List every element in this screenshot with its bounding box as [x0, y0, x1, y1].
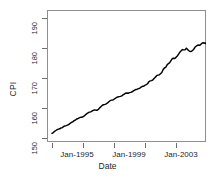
x-tick-label: Jan-2003: [164, 150, 197, 159]
x-tick-mark: [176, 143, 177, 148]
x-tick-label: Jan-1995: [60, 150, 93, 159]
y-axis-title: CPI: [8, 82, 18, 97]
x-tick-mark: [52, 143, 53, 148]
y-tick-label: 150: [31, 142, 39, 155]
cpi-observed-line: [52, 25, 206, 133]
x-tick-label: Jan-1999: [112, 150, 145, 159]
x-axis-title: Date: [0, 161, 215, 171]
y-tick-label: 160: [31, 112, 39, 125]
chart-type: line: [0, 0, 1, 1]
plot-drawing-area: [47, 10, 206, 142]
x-tick-mark: [114, 143, 115, 148]
y-tick-label: 180: [31, 52, 39, 65]
cpi-time-series-figure: 150 160 170 180 190 CPI Jan-1995 Jan-199…: [0, 0, 215, 178]
y-tick-label: 170: [31, 82, 39, 95]
x-tick-mark: [83, 143, 84, 148]
observed-series-group: [52, 25, 206, 133]
x-tick-mark: [145, 143, 146, 148]
y-tick-label: 190: [31, 22, 39, 35]
